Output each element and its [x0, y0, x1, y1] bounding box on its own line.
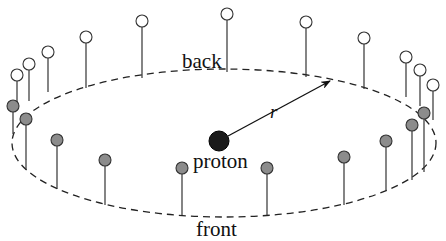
filled-marker [176, 162, 188, 215]
open-marker [358, 32, 370, 89]
open-marker [23, 58, 35, 101]
filled-marker [261, 162, 273, 215]
marker-circle [176, 162, 188, 174]
filled-marker [51, 134, 63, 189]
marker-circle [80, 31, 92, 43]
open-marker [136, 15, 148, 78]
marker-circle [7, 100, 19, 112]
marker-circle [136, 15, 148, 27]
filled-marker [338, 151, 350, 205]
marker-circle [338, 151, 350, 163]
open-marker [300, 16, 312, 77]
filled-marker [20, 113, 32, 170]
marker-circle [51, 134, 63, 146]
marker-circle [20, 113, 32, 125]
marker-circle [42, 46, 54, 58]
label-radius: r [270, 101, 278, 122]
filled-marker [418, 107, 430, 172]
filled-marker [7, 100, 19, 134]
marker-circle [221, 8, 233, 20]
open-marker [42, 46, 54, 92]
filled-marker [380, 135, 392, 191]
back-markers-group [11, 8, 439, 120]
marker-circle [414, 64, 426, 76]
marker-circle [23, 58, 35, 70]
filled-marker [406, 119, 418, 180]
label-back: back [182, 49, 222, 73]
marker-circle [427, 79, 439, 91]
marker-circle [261, 162, 273, 174]
open-marker [400, 51, 412, 97]
marker-circle [99, 154, 111, 166]
marker-circle [400, 51, 412, 63]
marker-circle [11, 69, 23, 81]
marker-circle [406, 119, 418, 131]
marker-circle [380, 135, 392, 147]
open-marker [221, 8, 233, 72]
marker-circle [300, 16, 312, 28]
radius-arrow-icon [228, 81, 330, 136]
marker-circle [358, 32, 370, 44]
label-proton: proton [193, 149, 248, 173]
label-front: front [196, 217, 237, 241]
open-marker [80, 31, 92, 88]
diagram-canvas: back r proton front [0, 0, 446, 241]
marker-circle [418, 107, 430, 119]
proton-ring-diagram: back r proton front [0, 0, 446, 241]
open-marker [414, 64, 426, 106]
proton-dot [209, 131, 229, 151]
filled-marker [99, 154, 111, 205]
